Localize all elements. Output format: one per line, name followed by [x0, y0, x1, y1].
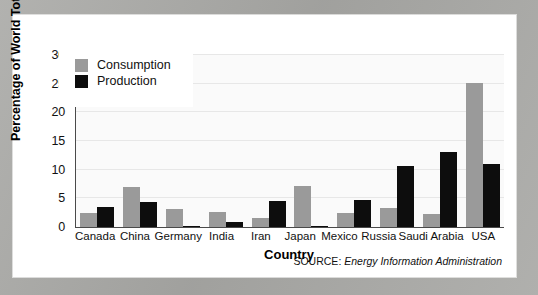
- bar-consumption: [337, 213, 354, 227]
- x-tick-label: India: [202, 230, 241, 242]
- source-label: SOURCE:: [293, 255, 341, 267]
- y-tick-label: 5: [58, 191, 65, 205]
- legend-item-production: Production: [75, 74, 171, 88]
- bar-consumption: [380, 208, 397, 227]
- consumption-swatch-icon: [75, 59, 88, 72]
- x-tick-label: Japan: [281, 230, 320, 242]
- legend-item-consumption: Consumption: [75, 58, 171, 72]
- x-tick-label: Iran: [241, 230, 280, 242]
- bar-production: [97, 207, 114, 227]
- bar-consumption: [466, 83, 483, 227]
- production-swatch-icon: [75, 75, 88, 88]
- bar-group: [204, 55, 247, 227]
- bar-production: [311, 226, 328, 227]
- bar-consumption: [166, 209, 183, 227]
- bar-group: [418, 55, 461, 227]
- bar-group: [461, 55, 504, 227]
- bar-consumption: [252, 218, 269, 227]
- x-tick-label: Germany: [155, 230, 202, 242]
- legend-label-consumption: Consumption: [97, 58, 171, 72]
- bar-group: [333, 55, 376, 227]
- bar-group: [247, 55, 290, 227]
- bar-group: [376, 55, 419, 227]
- y-tick-label: 0: [58, 220, 65, 234]
- bar-production: [397, 166, 414, 227]
- chart-panel: Percentage of World Total 051015202530 C…: [13, 15, 516, 277]
- x-tick-label: China: [115, 230, 154, 242]
- bar-consumption: [423, 214, 440, 227]
- bar-group: [290, 55, 333, 227]
- bar-production: [440, 152, 457, 227]
- x-tick-label: Mexico: [320, 230, 359, 242]
- bar-production: [183, 226, 200, 227]
- bar-consumption: [294, 186, 311, 227]
- y-tick-label: 20: [51, 105, 65, 119]
- y-tick-label: 15: [51, 134, 65, 148]
- x-tick-label: Canada: [75, 230, 115, 242]
- bar-consumption: [123, 187, 140, 227]
- legend-label-production: Production: [97, 74, 157, 88]
- x-axis-labels: CanadaChinaGermanyIndiaIranJapanMexicoRu…: [75, 230, 503, 242]
- x-tick-label: Saudi Arabia: [398, 230, 463, 242]
- x-tick-label: USA: [464, 230, 503, 242]
- bar-production: [140, 202, 157, 227]
- bar-consumption: [80, 213, 97, 227]
- bar-production: [269, 201, 286, 227]
- bar-production: [226, 222, 243, 227]
- bar-production: [354, 200, 371, 227]
- chart-legend: Consumption Production: [65, 51, 185, 96]
- source-name: Energy Information Administration: [344, 255, 502, 267]
- source-note: SOURCE: Energy Information Administratio…: [293, 255, 502, 267]
- x-tick-label: Russia: [359, 230, 398, 242]
- bar-production: [483, 164, 500, 227]
- y-tick-label: 10: [51, 163, 65, 177]
- bar-consumption: [209, 212, 226, 227]
